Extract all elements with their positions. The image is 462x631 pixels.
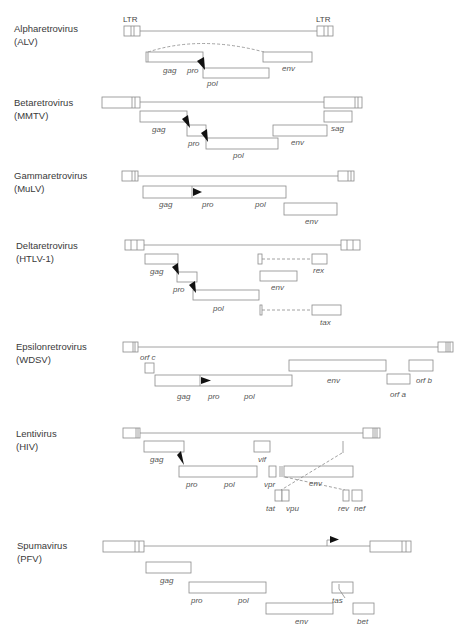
orf-rex [312,254,327,264]
gene-label-rev: rev [338,504,350,513]
genus-abbrev: (PFV) [17,553,42,564]
gene-label-gag: gag [150,267,164,276]
retrovirus-genome-diagram: Alpharetrovirus (ALV) LTR LTR gag pro po… [0,0,462,631]
gene-label-tax: tax [320,318,332,327]
orf-env [289,360,386,371]
orf-gag [140,111,187,122]
ltr-left [103,541,144,552]
genus-lentivirus: Lentivirus (HIV) gag pro pol vif vpr en [16,428,380,513]
frameshift-marker [172,263,179,275]
gene-label-pro: pro [187,139,200,148]
genus-abbrev: (HTLV-1) [16,253,54,264]
gene-label-pro: pro [190,596,203,605]
genus-name: Alpharetrovirus [14,23,78,34]
gene-label-orf-a: orf a [390,390,407,399]
gene-label-env: env [309,479,323,488]
gene-label-tat: tat [266,504,276,513]
gene-label-pro: pro [185,480,198,489]
gene-label-bet: bet [357,617,369,626]
genus-deltaretrovirus: Deltaretrovirus (HTLV-1) gag pro pol env… [16,240,360,327]
orf-sag [324,111,352,122]
gene-label-vpr: vpr [264,480,275,489]
orf-vif [254,441,270,452]
ltr-left [125,240,144,250]
orf-gag [145,254,178,264]
gene-label-pol: pol [223,480,235,489]
genus-abbrev: (MMTV) [14,110,48,121]
gene-label-gag: gag [150,455,164,464]
orf-pol [193,290,259,300]
gene-label-vif: vif [258,455,267,464]
orf-pro [177,272,197,282]
gene-label-env: env [327,376,341,385]
orf-orf-b [409,360,433,371]
frameshift-marker [189,281,196,293]
orf-tax [312,305,341,315]
genus-name: Deltaretrovirus [16,240,78,251]
gene-label-pol: pol [232,151,244,160]
orf-gag [146,52,203,62]
orf-vpr [269,466,276,477]
gene-label-gag: gag [152,125,166,134]
tax-exon1 [260,305,262,315]
orf-gag [144,441,184,452]
genus-abbrev: (WDSV) [16,354,51,365]
gene-label-pro: pro [201,200,214,209]
gene-label-gag: gag [160,576,174,585]
gene-label-pol: pol [212,304,224,313]
genus-gammaretrovirus: Gammaretrovirus (MuLV) gag pro pol env [14,170,354,226]
gene-label-pol: pol [254,200,266,209]
genus-alpharetrovirus: Alpharetrovirus (ALV) LTR LTR gag pro po… [14,15,333,88]
orf-pro-pol [189,582,266,593]
ltr-left [122,171,138,181]
gene-label-pro: pro [172,285,185,294]
ltr-label-left: LTR [123,15,138,24]
internal-promoter-arrow [327,536,339,546]
gene-label-orf-b: orf b [416,376,433,385]
ltr-right [338,171,354,181]
orf-rev [343,490,349,501]
genus-name: Gammaretrovirus [14,170,88,181]
gene-label-env: env [295,617,309,626]
gene-label-sag: sag [331,124,344,133]
genus-betaretrovirus: Betaretrovirus (MMTV) gag pro pol env sa… [14,97,362,160]
orf-orf-a [387,374,410,384]
ltr-left [124,26,140,36]
orf-env [284,203,337,215]
genus-spumavirus: Spumavirus (PFV) gag pro pol env tas bet [17,536,411,626]
genus-name: Betaretrovirus [14,97,73,108]
gene-label-env: env [305,217,319,226]
gene-label-env: env [282,64,296,73]
gene-label-pro: pro [207,392,220,401]
orf-env [263,52,312,62]
ltr-left [123,342,138,352]
ltr-right [363,428,380,438]
frameshift-marker [177,451,184,465]
orf-tat [275,490,282,501]
orf-pol [206,138,278,149]
orf-gag-pro-pol [155,375,292,386]
genus-epsilonretrovirus: Epsilonretrovirus (WDSV) orf c gag pro p… [16,341,453,401]
gene-label-orf-c: orf c [140,353,156,362]
gene-label-pol: pol [206,79,218,88]
orf-pro-pol [179,466,257,477]
orf-gag-pro-pol [143,186,286,198]
ltr-right [438,342,453,352]
splice-arc [148,44,264,53]
gene-label-pro: pro [186,66,199,75]
genus-name: Epsilonretrovirus [16,341,87,352]
orf-env [266,603,333,614]
genus-name: Spumavirus [17,540,67,551]
gene-label-gag: gag [159,200,173,209]
genus-abbrev: (MuLV) [14,183,44,194]
orf-gag [146,562,191,573]
ltr-left [123,428,140,438]
orf-env [273,125,327,136]
ltr-right [324,97,362,108]
orf-bet [353,603,374,614]
gene-label-gag: gag [177,392,191,401]
orf-vpu [282,490,289,501]
gene-label-env: env [271,283,285,292]
gene-label-vpu: vpu [286,504,299,513]
ltr-left [102,97,140,108]
